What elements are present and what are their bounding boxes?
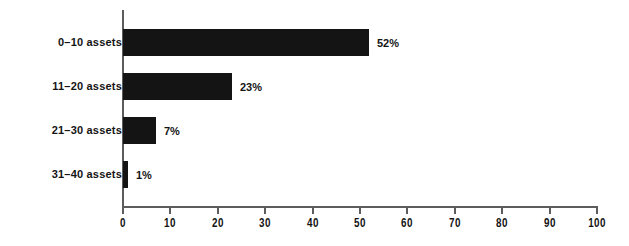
- category-label: 31–40 assets: [0, 168, 122, 180]
- x-axis-tick-label: 80: [496, 216, 508, 230]
- x-axis-tick: [122, 206, 124, 214]
- x-axis-tick: [406, 206, 408, 214]
- x-axis-tick: [359, 206, 361, 214]
- x-axis-tick-label: 90: [544, 216, 556, 230]
- x-axis-tick: [217, 206, 219, 214]
- x-axis-tick-label: 10: [164, 216, 176, 230]
- bar-value-label: 1%: [136, 169, 152, 181]
- x-axis-tick-label: 0: [120, 216, 126, 230]
- x-axis-tick-label: 30: [259, 216, 271, 230]
- x-axis-tick: [596, 206, 598, 214]
- x-axis-tick: [312, 206, 314, 214]
- bar: [123, 161, 128, 188]
- bar: [123, 29, 369, 56]
- x-axis-tick: [454, 206, 456, 214]
- bar-value-label: 7%: [164, 125, 180, 137]
- bar-value-label: 52%: [377, 37, 399, 49]
- x-axis-tick-label: 100: [588, 216, 606, 230]
- x-axis-tick-label: 20: [212, 216, 224, 230]
- x-axis-tick-label: 70: [449, 216, 461, 230]
- bar: [123, 117, 156, 144]
- bar-chart: 0–10 assets 11–20 assets 21–30 assets 31…: [0, 0, 629, 246]
- x-axis-tick-label: 40: [307, 216, 319, 230]
- plot-area: 52% 23% 7% 1% 0 10 20 30 40 50 60 70 80 …: [122, 0, 598, 246]
- x-axis-tick: [549, 206, 551, 214]
- x-axis-tick-label: 60: [401, 216, 413, 230]
- category-label: 0–10 assets: [0, 36, 122, 48]
- bar: [123, 73, 232, 100]
- x-axis-tick: [264, 206, 266, 214]
- bar-value-label: 23%: [240, 81, 262, 93]
- x-axis-tick-label: 50: [354, 216, 366, 230]
- category-label: 21–30 assets: [0, 124, 122, 136]
- category-label: 11–20 assets: [0, 80, 122, 92]
- x-axis-tick: [169, 206, 171, 214]
- x-axis-tick: [501, 206, 503, 214]
